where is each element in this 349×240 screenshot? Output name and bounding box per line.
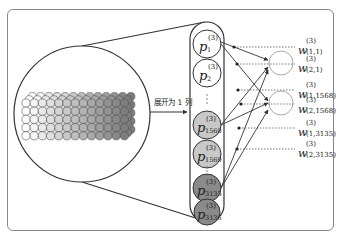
unfold-label: 展开为 1 列 xyxy=(154,96,192,107)
node-label-p2: p(3)2 xyxy=(199,67,207,83)
node-label-p3136: p(3)3136 xyxy=(197,206,205,222)
weight-label-1-3135: w(3)(1,3135) xyxy=(298,123,307,139)
diagram-canvas xyxy=(0,0,349,240)
node-label-p3135: p(3)3135 xyxy=(197,182,205,198)
node-label-p1: p(3)1 xyxy=(199,38,207,54)
node-label-p1568: p(3)1568 xyxy=(197,119,205,135)
feature-map-cube xyxy=(22,93,135,140)
weight-label-2-1: w(3)(2,1) xyxy=(298,59,307,75)
weight-label-2-1568: w(3)(2,1568) xyxy=(298,100,307,116)
output-neurons xyxy=(269,51,293,115)
node-label-p1569: p(3)1569 xyxy=(197,148,205,164)
weight-label-2-3135: w(3)(2,3135) xyxy=(298,144,307,160)
weight-dots xyxy=(232,45,242,150)
